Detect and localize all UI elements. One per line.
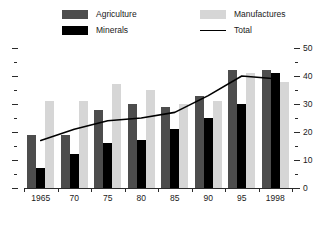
bar-group <box>225 48 259 188</box>
bar-manufactures <box>179 104 188 188</box>
legend-swatch-agriculture <box>62 10 88 19</box>
bar-minerals <box>36 168 45 188</box>
axis-tick-minor <box>14 174 17 175</box>
bar-minerals <box>271 73 280 188</box>
y-axis-ticks-right <box>294 48 300 188</box>
axis-tick-major <box>12 48 18 49</box>
bar-agriculture <box>61 135 70 188</box>
y-axis-tick-label: 20 <box>303 128 312 137</box>
bar-manufactures <box>79 101 88 188</box>
bar-groups <box>24 48 292 188</box>
bar-agriculture <box>128 104 137 188</box>
axis-tick-minor <box>14 118 17 119</box>
bar-manufactures <box>112 84 121 188</box>
axis-tick-minor <box>14 90 17 91</box>
legend-swatch-manufactures <box>200 10 226 19</box>
bar-agriculture <box>228 70 237 188</box>
bar-agriculture <box>161 107 170 188</box>
y-axis-tick-label: 30 <box>303 100 312 109</box>
axis-tick-major <box>294 104 300 105</box>
y-axis-tick-label: 50 <box>303 44 312 53</box>
axis-tick-major <box>12 104 18 105</box>
axis-tick-minor <box>14 146 17 147</box>
axis-tick-major <box>294 48 300 49</box>
x-axis-tick <box>292 188 293 192</box>
chart-container: Agriculture Minerals Manufactures Total … <box>0 0 335 225</box>
legend-swatch-minerals <box>62 26 88 35</box>
axis-tick-minor <box>14 62 17 63</box>
axis-tick-major <box>294 76 300 77</box>
x-axis-tick-label: 95 <box>225 192 259 206</box>
bar-minerals <box>70 154 79 188</box>
legend-label-agriculture: Agriculture <box>96 10 137 19</box>
chart-legend: Agriculture Minerals Manufactures Total <box>62 8 307 40</box>
legend-label-manufactures: Manufactures <box>234 10 286 19</box>
axis-tick-major <box>12 76 18 77</box>
legend-item-total: Total <box>200 24 252 37</box>
x-axis-tick-label: 90 <box>192 192 226 206</box>
x-axis-tick-label: 1965 <box>24 192 58 206</box>
bar-agriculture <box>195 96 204 188</box>
y-axis-tick-label: 10 <box>303 156 312 165</box>
bar-minerals <box>237 104 246 188</box>
axis-tick-minor <box>295 118 298 119</box>
bar-manufactures <box>213 101 222 188</box>
axis-tick-major <box>294 132 300 133</box>
bar-group <box>58 48 92 188</box>
bar-group <box>125 48 159 188</box>
legend-line-total <box>200 26 226 35</box>
bar-group <box>158 48 192 188</box>
axis-tick-major <box>294 160 300 161</box>
axis-tick-minor <box>295 62 298 63</box>
bar-manufactures <box>45 101 54 188</box>
bar-group <box>192 48 226 188</box>
x-axis-labels: 19657075808590951998 <box>24 192 292 206</box>
bar-manufactures <box>246 73 255 188</box>
x-axis-tick-label: 1998 <box>259 192 293 206</box>
bar-minerals <box>103 143 112 188</box>
bar-agriculture <box>262 70 271 188</box>
y-axis-tick-label: 40 <box>303 72 312 81</box>
bar-agriculture <box>27 135 36 188</box>
bar-minerals <box>137 140 146 188</box>
legend-label-minerals: Minerals <box>96 26 128 35</box>
bar-minerals <box>170 129 179 188</box>
bar-manufactures <box>280 82 289 188</box>
axis-tick-major <box>12 188 18 189</box>
bar-manufactures <box>146 90 155 188</box>
bar-group <box>259 48 293 188</box>
bar-minerals <box>204 118 213 188</box>
x-axis-line <box>24 188 294 189</box>
axis-tick-major <box>12 132 18 133</box>
x-axis-tick-label: 80 <box>125 192 159 206</box>
y-axis-ticks-left <box>12 48 18 188</box>
axis-tick-minor <box>295 174 298 175</box>
axis-tick-minor <box>295 146 298 147</box>
x-axis-tick-label: 75 <box>91 192 125 206</box>
y-axis-tick-label: 0 <box>303 184 308 193</box>
axis-tick-major <box>12 160 18 161</box>
legend-item-agriculture: Agriculture <box>62 8 137 21</box>
x-axis-tick-label: 70 <box>58 192 92 206</box>
bar-agriculture <box>94 110 103 188</box>
legend-item-minerals: Minerals <box>62 24 128 37</box>
legend-item-manufactures: Manufactures <box>200 8 286 21</box>
axis-tick-minor <box>295 90 298 91</box>
y-axis-labels-right: 50403020100 <box>303 48 331 188</box>
plot-area <box>24 48 292 188</box>
legend-label-total: Total <box>234 26 252 35</box>
bar-group <box>91 48 125 188</box>
bar-group <box>24 48 58 188</box>
x-axis-tick-label: 85 <box>158 192 192 206</box>
axis-tick-major <box>294 188 300 189</box>
